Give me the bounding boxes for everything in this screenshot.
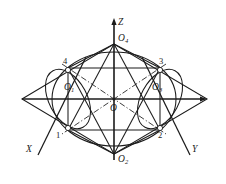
vertex-label-4: 4 bbox=[63, 57, 67, 66]
figure-canvas bbox=[0, 0, 226, 184]
point-label-o2-sub: 2 bbox=[125, 158, 128, 165]
point-label-o1-base: O bbox=[64, 82, 71, 92]
point-label-o1: O1 bbox=[64, 83, 74, 93]
y-axis-line bbox=[142, 57, 190, 155]
vertex-label-1: 1 bbox=[56, 131, 60, 140]
point-label-o4-sub: 4 bbox=[125, 37, 128, 44]
center-point bbox=[113, 98, 116, 101]
axis-label-x: X bbox=[26, 145, 32, 155]
point-label-o4-base: O bbox=[118, 33, 125, 43]
axis-label-y: Y bbox=[192, 145, 197, 155]
point-label-origin: O bbox=[110, 104, 117, 114]
isometric-figure: Z X Y O4 O2 O1 O3 O 4 3 2 1 bbox=[0, 0, 226, 184]
point-label-o2: O2 bbox=[118, 155, 128, 165]
vertex-label-2: 2 bbox=[158, 131, 162, 140]
point-label-o1-sub: 1 bbox=[71, 86, 74, 93]
vertex-label-3: 3 bbox=[159, 57, 163, 66]
point-label-o3-base: O bbox=[152, 82, 159, 92]
x-axis-line bbox=[38, 57, 86, 155]
point-label-o2-base: O bbox=[118, 154, 125, 164]
point-label-o3: O3 bbox=[152, 83, 162, 93]
marker-vertex-3 bbox=[157, 67, 162, 72]
point-label-o4: O4 bbox=[118, 34, 128, 44]
z-axis-line bbox=[111, 18, 116, 160]
point-label-o3-sub: 3 bbox=[159, 86, 162, 93]
marker-vertex-1 bbox=[65, 125, 70, 130]
marker-vertex-4 bbox=[65, 67, 70, 72]
axis-label-z: Z bbox=[118, 18, 123, 28]
